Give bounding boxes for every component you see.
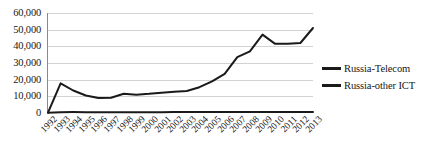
series-line-0 [48, 28, 313, 113]
legend-line-icon [322, 84, 341, 87]
chart-legend: Russia-Telecom Russia-other ICT [322, 60, 434, 94]
series-container [48, 13, 313, 113]
legend-item-0[interactable]: Russia-Telecom [322, 60, 434, 77]
y-axis-tick-label: 50,000 [13, 25, 41, 35]
legend-item-1[interactable]: Russia-other ICT [322, 77, 434, 94]
legend-item-label: Russia-Telecom [344, 63, 410, 74]
y-axis-tick-label: 60,000 [13, 8, 41, 18]
series-line-1 [48, 112, 313, 113]
x-axis-labels: 1992199319941995199619971998199920002001… [48, 114, 313, 155]
y-axis-tick-label: 0 [36, 108, 41, 118]
y-axis-tick-label: 10,000 [13, 91, 41, 101]
plot-area-wrapper [48, 13, 313, 113]
y-axis-tick-label: 40,000 [13, 41, 41, 51]
y-axis-tick-label: 30,000 [13, 58, 41, 68]
y-axis-tick-label: 20,000 [13, 75, 41, 85]
y-axis-labels: 60,00050,00040,00030,00020,00010,0000 [0, 0, 44, 126]
legend-item-label: Russia-other ICT [344, 80, 415, 91]
legend-line-icon [322, 67, 341, 70]
line-chart: 60,00050,00040,00030,00020,00010,0000 19… [0, 0, 434, 155]
plot-area [48, 13, 313, 113]
